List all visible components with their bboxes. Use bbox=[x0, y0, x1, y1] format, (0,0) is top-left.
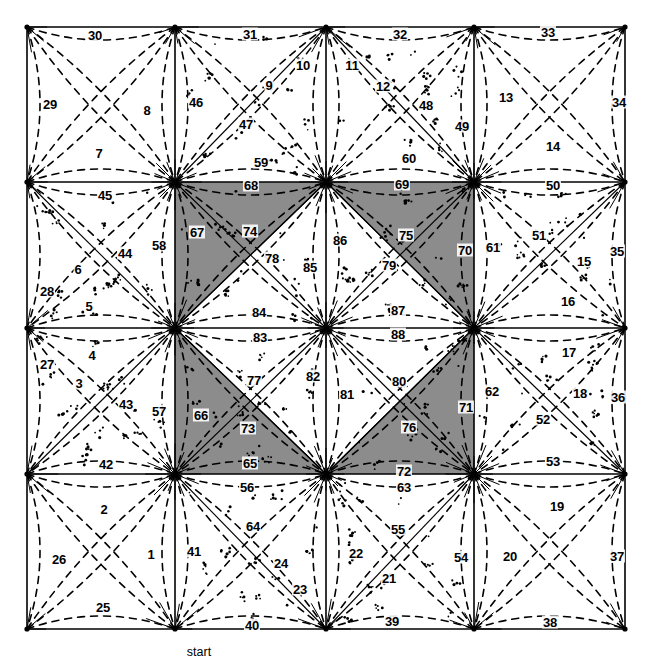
stipple-dot bbox=[410, 54, 412, 56]
graph-node[interactable] bbox=[471, 325, 476, 330]
graph-node[interactable] bbox=[24, 626, 29, 631]
stipple-dot bbox=[196, 281, 199, 284]
graph-node[interactable] bbox=[24, 179, 29, 184]
stipple-dot bbox=[451, 95, 453, 97]
graph-node[interactable] bbox=[24, 24, 29, 29]
edge-label-29: 29 bbox=[42, 98, 58, 111]
arc-cell-right bbox=[162, 328, 175, 474]
arc-cell-left bbox=[326, 474, 339, 629]
stipple-dot bbox=[452, 69, 455, 72]
stipple-dot bbox=[243, 600, 245, 602]
stipple-dot bbox=[422, 284, 425, 287]
stipple-dot bbox=[339, 498, 341, 500]
edge-label-52: 52 bbox=[535, 413, 551, 426]
graph-node[interactable] bbox=[323, 626, 328, 631]
node-fan-ray bbox=[175, 474, 191, 490]
stipple-dot bbox=[133, 432, 135, 434]
stipple-dot bbox=[348, 541, 351, 544]
stipple-dot bbox=[213, 411, 216, 414]
stipple-dot bbox=[237, 370, 239, 372]
stipple-dot bbox=[437, 119, 439, 121]
graph-node[interactable] bbox=[622, 179, 627, 184]
graph-node[interactable] bbox=[622, 24, 627, 29]
stipple-dot bbox=[557, 195, 560, 198]
stipple-dot bbox=[285, 408, 287, 410]
edge-label-73: 73 bbox=[240, 422, 256, 435]
stipple-dot bbox=[522, 253, 525, 256]
stipple-dot bbox=[258, 445, 261, 448]
node-fan-ray bbox=[474, 328, 490, 344]
graph-node[interactable] bbox=[323, 471, 328, 476]
node-fan-ray bbox=[326, 311, 343, 328]
edge-label-50: 50 bbox=[545, 179, 561, 192]
stipple-dot bbox=[36, 205, 38, 207]
stipple-dot bbox=[296, 166, 298, 168]
stipple-dot bbox=[307, 119, 310, 122]
graph-node[interactable] bbox=[24, 471, 29, 476]
stipple-dot bbox=[381, 606, 384, 609]
stipple-dot bbox=[609, 279, 611, 281]
stipple-dot bbox=[427, 564, 429, 566]
stipple-dot bbox=[241, 591, 244, 594]
stipple-dot bbox=[293, 278, 296, 281]
stipple-dot bbox=[431, 563, 433, 565]
stipple-dot bbox=[517, 254, 519, 256]
stipple-dot bbox=[551, 229, 553, 231]
stipple-dot bbox=[424, 403, 427, 406]
stipple-dot bbox=[204, 153, 206, 155]
graph-node[interactable] bbox=[172, 24, 177, 29]
stipple-dot bbox=[160, 426, 162, 428]
graph-node[interactable] bbox=[323, 325, 328, 330]
arc-cell-left bbox=[474, 474, 487, 629]
arc-cell-diag-anti bbox=[474, 27, 625, 182]
graph-node[interactable] bbox=[471, 24, 476, 29]
graph-node[interactable] bbox=[622, 626, 627, 631]
graph-node[interactable] bbox=[622, 471, 627, 476]
stipple-dot bbox=[107, 389, 109, 391]
edge-label-66: 66 bbox=[193, 409, 209, 422]
graph-node[interactable] bbox=[172, 325, 177, 330]
stipple-dot bbox=[254, 102, 256, 104]
arc-cell-bottom bbox=[474, 315, 625, 328]
stipple-dot bbox=[186, 366, 189, 369]
stipple-dot bbox=[243, 596, 246, 599]
stipple-dot bbox=[94, 293, 97, 296]
stipple-dot bbox=[609, 282, 612, 285]
edge-label-79: 79 bbox=[381, 259, 397, 272]
stipple-dot bbox=[81, 455, 84, 458]
arc-cell-diag-main bbox=[474, 27, 625, 182]
arc-cell-left bbox=[326, 182, 339, 328]
stipple-dot bbox=[267, 456, 269, 458]
edge-label-17: 17 bbox=[561, 346, 577, 359]
stipple-dot bbox=[520, 252, 522, 254]
stipple-dot bbox=[214, 223, 217, 226]
arc-cell-right bbox=[461, 27, 474, 182]
edge-label-76: 76 bbox=[401, 421, 417, 434]
edge-label-18: 18 bbox=[572, 387, 588, 400]
stipple-dot bbox=[368, 272, 370, 274]
arc-cell-left bbox=[27, 474, 40, 629]
stipple-dot bbox=[146, 287, 149, 290]
stipple-dot bbox=[291, 313, 294, 316]
stipple-dot bbox=[583, 237, 585, 239]
edge-label-70: 70 bbox=[457, 244, 473, 257]
stipple-dot bbox=[187, 282, 189, 284]
arc-cell-diag-anti-b bbox=[474, 474, 625, 629]
stipple-dot bbox=[579, 276, 581, 278]
stipple-dot bbox=[252, 613, 254, 615]
graph-node[interactable] bbox=[24, 325, 29, 330]
edge-label-15: 15 bbox=[576, 255, 592, 268]
graph-node[interactable] bbox=[323, 179, 328, 184]
stipple-dot bbox=[557, 221, 560, 224]
graph-node[interactable] bbox=[622, 325, 627, 330]
graph-node[interactable] bbox=[471, 626, 476, 631]
graph-node[interactable] bbox=[172, 471, 177, 476]
stipple-dot bbox=[342, 277, 344, 279]
graph-node[interactable] bbox=[172, 626, 177, 631]
stipple-dot bbox=[52, 223, 54, 225]
stipple-dot bbox=[192, 401, 194, 403]
graph-node[interactable] bbox=[172, 179, 177, 184]
graph-node[interactable] bbox=[471, 179, 476, 184]
graph-node[interactable] bbox=[323, 24, 328, 29]
graph-node[interactable] bbox=[471, 471, 476, 476]
